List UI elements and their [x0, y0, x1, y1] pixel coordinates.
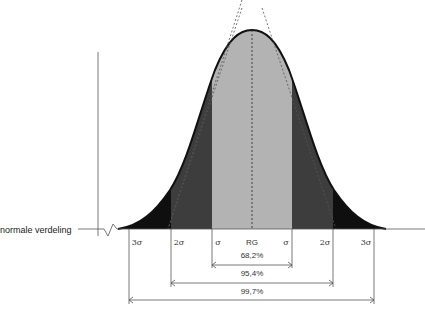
- label-neg3sigma: 3σ: [132, 238, 143, 247]
- axis-label: normale verdeling: [0, 225, 72, 235]
- band-2sigma-right: [292, 20, 333, 230]
- normal-distribution-diagram: [0, 0, 425, 309]
- band-2sigma-left: [171, 20, 212, 230]
- label-mean: RG: [246, 238, 258, 247]
- label-neg2sigma: 2σ: [174, 238, 185, 247]
- label-pos1sigma: σ: [283, 238, 288, 247]
- label-pos2sigma: 2σ: [320, 238, 331, 247]
- range-label-95: 95,4%: [241, 269, 264, 278]
- shaded-area: [100, 20, 393, 230]
- band-3sigma-left: [100, 20, 171, 230]
- range-label-68: 68,2%: [241, 251, 264, 260]
- label-neg1sigma: σ: [215, 238, 220, 247]
- band-3sigma-right: [333, 20, 393, 230]
- label-pos3sigma: 3σ: [361, 238, 372, 247]
- axis-break-icon: [104, 224, 117, 236]
- range-label-99: 99,7%: [241, 287, 264, 296]
